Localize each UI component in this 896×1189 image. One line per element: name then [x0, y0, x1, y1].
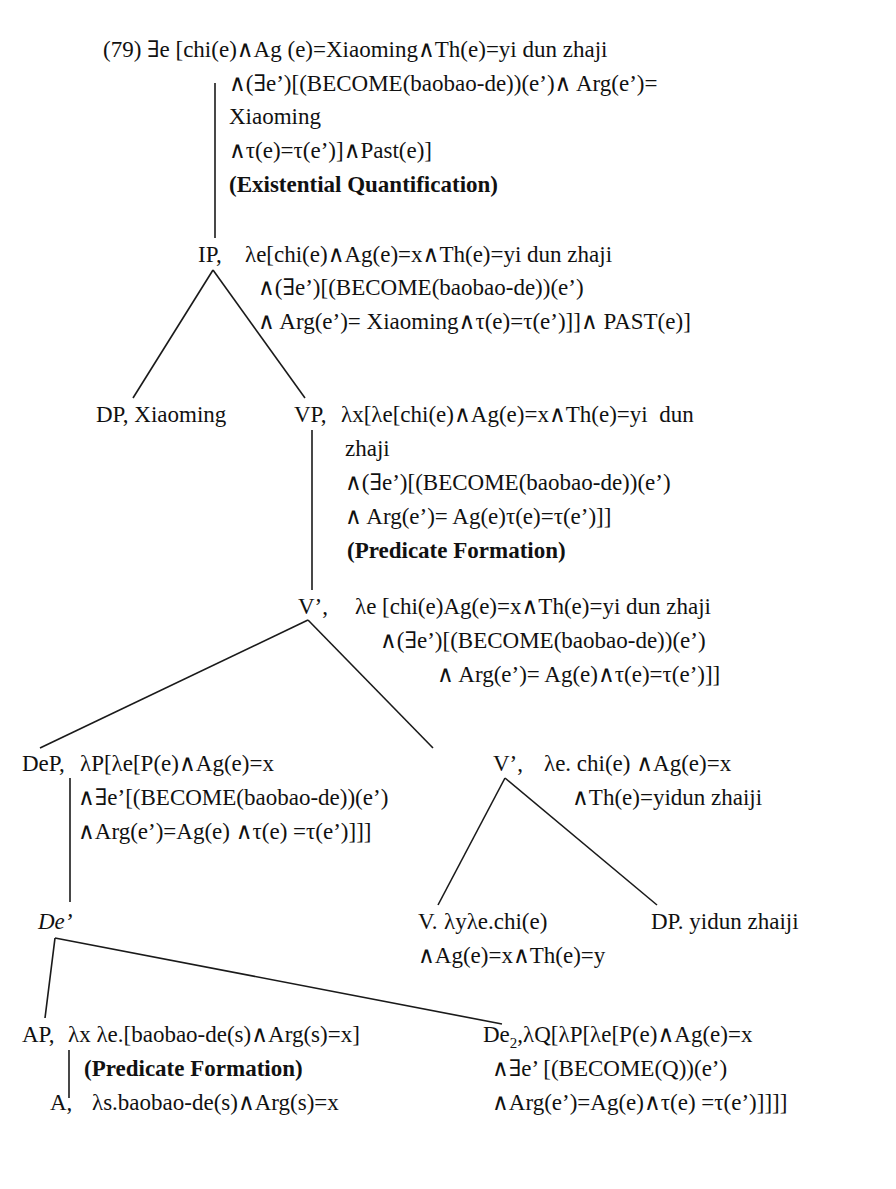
- vbar-lower-formula-line-1: λe. chi(e) ∧Ag(e)=x: [544, 752, 731, 775]
- node-label-vbar-upper: V’,: [298, 595, 328, 618]
- syntax-tree-diagram: (79) ∃e [chi(e)∧Ag (e)=Xiaoming∧Th(e)=yi…: [0, 0, 896, 1189]
- root-formula-line-1: (79) ∃e [chi(e)∧Ag (e)=Xiaoming∧Th(e)=yi…: [103, 38, 607, 61]
- rule-existential-quantification: (Existential Quantification): [229, 173, 498, 196]
- root-formula-line-4: ∧τ(e)=τ(e’)]∧Past(e)]: [229, 139, 432, 162]
- v-formula-line-2: ∧Ag(e)=x∧Th(e)=y: [418, 944, 605, 967]
- node-label-vp: VP,: [294, 403, 327, 426]
- rule-predicate-formation-ap: (Predicate Formation): [84, 1057, 303, 1080]
- node-label-v: V.: [418, 910, 437, 933]
- de2-label-text: De: [483, 1022, 510, 1047]
- de2-formula-line-2: ∧∃e’ [(BECOME(Q))(e’): [492, 1057, 727, 1080]
- branch-ip-dp: [133, 270, 213, 398]
- vp-formula-line-1: λx[λe[chi(e)∧Ag(e)=x∧Th(e)=yi dun: [341, 403, 694, 426]
- node-label-ip: IP,: [198, 243, 222, 266]
- ap-formula-line-1: λx λe.[baobao-de(s)∧Arg(s)=x]: [68, 1023, 360, 1046]
- node-label-dep: DeP,: [22, 752, 65, 775]
- node-label-vbar-lower: V’,: [493, 752, 523, 775]
- ip-formula-line-2: ∧(∃e’)[(BECOME(baobao-de))(e’): [258, 276, 584, 299]
- vp-formula-line-2: zhaji: [345, 437, 390, 460]
- de2-formula-line-3: ∧Arg(e’)=Ag(e)∧τ(e) =τ(e’)]]]]: [492, 1091, 787, 1114]
- node-label-ap: AP,: [22, 1023, 55, 1046]
- node-label-de-bar: De’: [38, 910, 72, 933]
- vbar-upper-formula-line-2: ∧(∃e’)[(BECOME(baobao-de))(e’): [380, 629, 706, 652]
- branch-vbar-dep: [40, 620, 308, 748]
- dep-formula-line-1: λP[λe[P(e)∧Ag(e)=x: [80, 752, 274, 775]
- node-label-dp-subject: DP, Xiaoming: [96, 403, 226, 426]
- vbar-upper-formula-line-1: λe [chi(e)Ag(e)=x∧Th(e)=yi dun zhaji: [355, 595, 711, 618]
- vp-formula-line-4: ∧ Arg(e’)= Ag(e)τ(e)=τ(e’)]]: [345, 505, 611, 528]
- node-label-de2: De2,λQ[λP[λe[P(e)∧Ag(e)=x: [483, 1023, 752, 1051]
- node-label-a: A,: [50, 1091, 72, 1114]
- dep-formula-line-2: ∧∃e’[(BECOME(baobao-de))(e’): [78, 786, 388, 809]
- vbar-upper-formula-line-3: ∧ Arg(e’)= Ag(e)∧τ(e)=τ(e’)]]: [437, 663, 720, 686]
- dep-formula-line-3: ∧Arg(e’)=Ag(e) ∧τ(e) =τ(e’)]]]: [78, 820, 371, 843]
- a-formula-line-1: λs.baobao-de(s)∧Arg(s)=x: [92, 1091, 339, 1114]
- ip-formula-line-3: ∧ Arg(e’)= Xiaoming∧τ(e)=τ(e’)]]∧ PAST(e…: [258, 310, 691, 333]
- branch-debar-ap: [45, 938, 55, 1018]
- branch-vbar-v: [438, 778, 505, 905]
- de2-formula-line-1: ,λQ[λP[λe[P(e)∧Ag(e)=x: [517, 1022, 752, 1047]
- vp-formula-line-3: ∧(∃e’)[(BECOME(baobao-de))(e’): [345, 471, 671, 494]
- rule-predicate-formation-vp: (Predicate Formation): [347, 539, 566, 562]
- vbar-lower-formula-line-2: ∧Th(e)=yidun zhaiji: [572, 786, 762, 809]
- root-formula-line-3: Xiaoming: [229, 105, 321, 128]
- v-formula-line-1: λyλe.chi(e): [444, 910, 547, 933]
- root-formula-line-2: ∧(∃e’)[(BECOME(baobao-de))(e’)∧ Arg(e’)=: [229, 72, 657, 95]
- ip-formula-line-1: λe[chi(e)∧Ag(e)=x∧Th(e)=yi dun zhaji: [245, 243, 612, 266]
- node-label-dp-object: DP. yidun zhaiji: [651, 910, 799, 933]
